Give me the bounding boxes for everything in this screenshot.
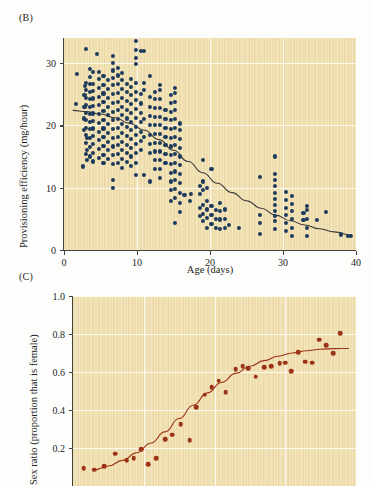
y-axis-tick bbox=[69, 448, 73, 449]
y-axis-tick bbox=[60, 63, 64, 64]
x-axis-tick bbox=[283, 251, 284, 255]
data-point bbox=[139, 447, 144, 452]
x-axis-tick bbox=[137, 251, 138, 255]
data-point bbox=[296, 350, 301, 355]
panel-b-y-axis-title: Provisioning efficiency (mg/hour) bbox=[18, 105, 29, 248]
data-point bbox=[170, 432, 175, 437]
data-point bbox=[303, 359, 308, 364]
y-axis-tick bbox=[69, 410, 73, 411]
data-point bbox=[216, 378, 221, 383]
y-axis-tick bbox=[69, 372, 73, 373]
data-point bbox=[283, 360, 288, 365]
panel-c-chart: 0.20.40.60.81.0 Sex ratio (proportion th… bbox=[0, 270, 373, 486]
data-point bbox=[253, 374, 258, 379]
y-axis-tick-label: 30 bbox=[20, 57, 56, 68]
data-point bbox=[146, 462, 151, 467]
y-axis-tick bbox=[69, 296, 73, 297]
y-axis-tick-label: 1.0 bbox=[29, 291, 65, 302]
trend-line bbox=[94, 348, 349, 469]
data-point bbox=[102, 464, 107, 469]
data-point bbox=[331, 351, 336, 356]
data-point bbox=[269, 364, 274, 369]
data-point bbox=[187, 438, 192, 443]
data-point bbox=[317, 337, 322, 342]
panel-b-overlay bbox=[0, 0, 373, 270]
data-point bbox=[338, 331, 343, 336]
data-point bbox=[202, 393, 207, 398]
data-point bbox=[310, 360, 315, 365]
data-point bbox=[262, 365, 267, 370]
x-axis-tick bbox=[64, 251, 65, 255]
data-point bbox=[233, 367, 238, 372]
data-point bbox=[289, 369, 294, 374]
y-axis-tick bbox=[60, 188, 64, 189]
data-point bbox=[277, 361, 282, 366]
data-point bbox=[241, 364, 246, 369]
x-axis-tick bbox=[356, 251, 357, 255]
data-point bbox=[113, 451, 118, 456]
panel-c-overlay bbox=[0, 270, 373, 486]
x-axis-tick bbox=[210, 251, 211, 255]
data-point bbox=[209, 385, 214, 390]
data-point bbox=[92, 468, 97, 473]
data-point bbox=[154, 456, 159, 461]
data-point bbox=[246, 366, 251, 371]
data-point bbox=[81, 466, 86, 471]
panel-b-chart: 0102030010203040 Age (days) Provisioning… bbox=[0, 0, 373, 270]
data-point bbox=[178, 422, 183, 427]
figure-root: (B) 0102030010203040 Age (days) Provisio… bbox=[0, 0, 373, 486]
panel-b-y-axis bbox=[63, 38, 64, 251]
data-point bbox=[124, 458, 129, 463]
panel-c-y-axis bbox=[72, 296, 73, 486]
panel-c-y-axis-title: Sex ratio (proportion that is female) bbox=[28, 334, 39, 485]
data-point bbox=[194, 405, 199, 410]
data-point bbox=[132, 456, 137, 461]
y-axis-tick bbox=[69, 334, 73, 335]
y-axis-tick bbox=[60, 125, 64, 126]
data-point bbox=[163, 437, 168, 442]
data-point bbox=[324, 343, 329, 348]
data-point bbox=[224, 390, 229, 395]
